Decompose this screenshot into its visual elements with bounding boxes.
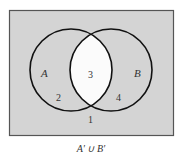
venn-diagram: A B 3 2 4 1 A′ ∪ B′: [0, 0, 184, 156]
region-1-number: 1: [88, 114, 93, 125]
diagram-caption: A′ ∪ B′: [76, 143, 106, 154]
set-b-label: B: [134, 67, 141, 79]
set-a-label: A: [40, 67, 48, 79]
region-4-number: 4: [116, 92, 121, 103]
region-2-number: 2: [56, 92, 61, 103]
region-3-number: 3: [88, 69, 93, 80]
